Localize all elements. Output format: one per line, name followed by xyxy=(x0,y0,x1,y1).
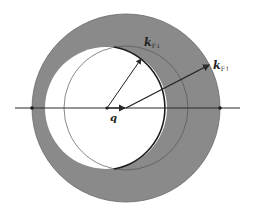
k-f-down-sub: F↓ xyxy=(152,42,161,49)
q-label: q xyxy=(110,113,117,123)
k-f-up-base: k xyxy=(213,59,221,72)
diagram-canvas xyxy=(0,0,253,215)
k-f-down-label: kF↓ xyxy=(144,37,161,49)
k-f-up-sub: F↑ xyxy=(221,65,230,72)
fermi-sphere-diagram: kF↓ kF↑ q xyxy=(0,0,253,215)
k-f-up-label: kF↑ xyxy=(213,60,230,72)
k-f-down-base: k xyxy=(144,36,152,49)
axis-dot-left xyxy=(30,106,34,110)
axis-dot-right xyxy=(218,106,222,110)
